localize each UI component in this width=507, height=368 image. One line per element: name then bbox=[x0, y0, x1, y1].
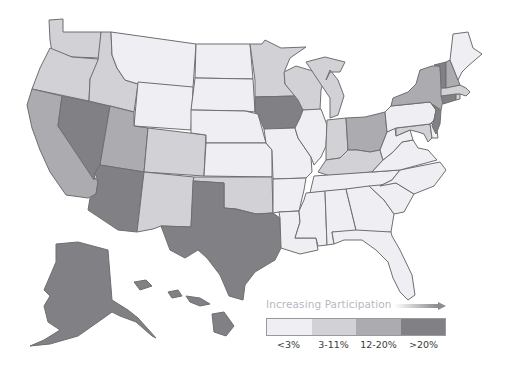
legend-label-lt3: <3% bbox=[266, 339, 311, 350]
state-AZ bbox=[88, 165, 144, 232]
state-SD bbox=[191, 78, 255, 112]
legend-swatch-gt20 bbox=[401, 319, 446, 335]
state-CO bbox=[144, 128, 206, 176]
state-KS bbox=[204, 143, 272, 177]
state-AK bbox=[30, 242, 156, 346]
legend-title: Increasing Participation bbox=[266, 298, 392, 310]
legend-label-gt20: >20% bbox=[401, 339, 446, 350]
legend-swatch-3-11 bbox=[312, 319, 357, 335]
arrow-right-icon bbox=[394, 302, 446, 310]
legend-swatch-12-20 bbox=[356, 319, 401, 335]
legend-label-3-11: 3-11% bbox=[311, 339, 356, 350]
legend-swatch-lt3 bbox=[267, 319, 312, 335]
state-ME bbox=[450, 32, 482, 80]
us-choropleth-map bbox=[0, 0, 507, 368]
state-WY bbox=[134, 82, 193, 130]
legend-label-12-20: 12-20% bbox=[356, 339, 401, 350]
state-OH bbox=[346, 112, 387, 152]
state-HI bbox=[134, 280, 234, 336]
state-IA bbox=[255, 96, 303, 129]
state-ND bbox=[195, 44, 253, 79]
state-NY bbox=[391, 66, 443, 110]
state-NM bbox=[137, 172, 194, 232]
state-RI bbox=[456, 94, 460, 100]
legend-labels: <3% 3-11% 12-20% >20% bbox=[266, 339, 446, 350]
legend-color-bar bbox=[266, 318, 446, 336]
state-FL bbox=[332, 230, 415, 300]
